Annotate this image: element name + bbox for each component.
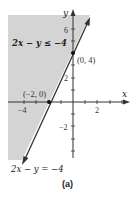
y-axis-label: y [62,8,69,18]
x-axis-arrow-icon [123,100,130,105]
boundary-equation-label: 2x − y = −4 [10,164,64,174]
x-tick-2: 2 [95,106,99,115]
y-axis-arrow-icon [71,9,76,16]
point-neg2-0 [47,100,51,104]
x-tick-neg4: −4 [18,106,27,115]
point-0-4 [71,51,75,55]
figure-caption: (a) [62,179,73,189]
shaded-region [8,15,90,160]
y-tick-neg2: −2 [59,123,68,132]
y-tick-6: 6 [64,26,68,35]
point-label-0-4: (0, 4) [77,55,96,65]
y-tick-2: 2 [64,74,68,83]
x-axis-label: x [122,89,127,99]
point-label-neg2-0: (−2, 0) [23,89,46,99]
inequality-label: 2x − y ≤ −4 [11,38,67,48]
inequality-graph: y x 6 2 −2 −4 2 (0, 4) (−2, 0) 2x − y ≤ … [0,0,135,199]
